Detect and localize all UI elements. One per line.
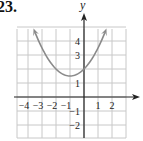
x-tick-label: −2 [47,100,58,111]
parabola-graph: y−4−3−2−112431−1−2 [0,0,143,141]
x-tick-label: 2 [110,100,115,111]
y-tick-label: 4 [75,36,80,47]
x-tick-label: −4 [19,100,30,111]
y-axis-label: y [79,0,86,12]
y-tick-label: −1 [69,106,80,117]
x-tick-label: 1 [96,100,101,111]
y-tick-label: 3 [75,50,80,61]
y-tick-label: 1 [75,78,80,89]
x-tick-label: −3 [33,100,44,111]
y-tick-label: −2 [69,120,80,131]
